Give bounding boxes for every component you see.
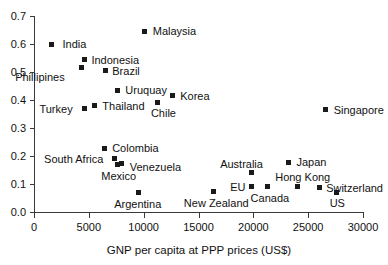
- y-axis-tick-label: 0.5: [0, 67, 26, 78]
- y-axis-tick: [30, 184, 35, 185]
- x-axis-tick: [34, 213, 35, 218]
- data-point: [323, 107, 328, 112]
- y-axis-tick-label: 0.7: [0, 11, 26, 22]
- data-point: [102, 146, 107, 151]
- x-axis-tick: [144, 213, 145, 218]
- x-axis-tick-label: 25000: [278, 222, 338, 233]
- data-point: [115, 162, 120, 167]
- y-axis-tick-label: 0.2: [0, 151, 26, 162]
- data-point: [103, 68, 108, 73]
- data-point: [82, 57, 87, 62]
- y-axis-tick-label: 0.4: [0, 95, 26, 106]
- data-point: [112, 156, 117, 161]
- x-axis-tick-label: 15000: [169, 222, 229, 233]
- data-point-label: New Zealand: [184, 198, 249, 209]
- y-axis-tick-label: 0.1: [0, 179, 26, 190]
- x-axis-tick-label: 0: [4, 222, 64, 233]
- x-axis-tick: [199, 213, 200, 218]
- data-point: [92, 103, 97, 108]
- y-axis-tick: [30, 16, 35, 17]
- data-point-label: Chile: [151, 108, 176, 119]
- data-point: [155, 100, 160, 105]
- y-axis-tick-label: 0.6: [0, 39, 26, 50]
- y-axis-tick: [30, 72, 35, 73]
- data-point-label: Korea: [180, 91, 209, 102]
- data-point-label: Singapore: [334, 105, 384, 116]
- x-axis-tick: [89, 213, 90, 218]
- data-point-label: Hong Kong: [275, 172, 330, 183]
- x-axis-tick-label: 5000: [59, 222, 119, 233]
- y-axis-tick: [30, 128, 35, 129]
- x-axis-tick: [308, 213, 309, 218]
- data-point: [119, 161, 124, 166]
- x-axis-tick-label: 30000: [333, 222, 388, 233]
- data-point: [136, 190, 141, 195]
- data-point-label: Canada: [251, 193, 290, 204]
- data-point-label: Thailand: [102, 101, 144, 112]
- data-point-label: India: [63, 39, 87, 50]
- data-point-label: Turkey: [39, 104, 72, 115]
- data-point-label: South Africa: [44, 154, 103, 165]
- y-axis-tick: [30, 44, 35, 45]
- data-point: [79, 65, 84, 70]
- data-point: [249, 170, 254, 175]
- y-axis-tick-label: 0.0: [0, 207, 26, 218]
- data-point: [286, 160, 291, 165]
- x-axis-tick: [253, 213, 254, 218]
- data-point-label: Argentina: [114, 199, 161, 210]
- x-axis-tick-label: 10000: [114, 222, 174, 233]
- data-point: [334, 190, 339, 195]
- data-point: [295, 184, 300, 189]
- data-point-label: Brazil: [112, 66, 140, 77]
- data-point-label: Uruquay: [125, 85, 167, 96]
- data-point: [49, 42, 54, 47]
- data-point: [211, 189, 216, 194]
- data-point-label: Malaysia: [153, 26, 196, 37]
- data-point-label: Japan: [296, 157, 326, 168]
- data-point: [317, 185, 322, 190]
- data-point-label: Venezuela: [130, 162, 181, 173]
- data-point-label: Colombia: [112, 143, 158, 154]
- x-axis-title: GNP per capita at PPP prices (US$): [34, 244, 364, 257]
- data-point-label: Australia: [220, 159, 263, 170]
- data-point-label: US: [330, 198, 345, 209]
- y-axis-tick: [30, 156, 35, 157]
- data-point: [249, 184, 254, 189]
- x-axis-tick-label: 20000: [223, 222, 283, 233]
- scatter-chart: IndiaIndonesiaPhillipinesBrazilMalaysiaU…: [0, 0, 388, 265]
- y-axis-tick: [30, 100, 35, 101]
- data-point: [82, 106, 87, 111]
- data-point: [170, 93, 175, 98]
- data-point: [142, 29, 147, 34]
- data-point-label: EU: [230, 182, 245, 193]
- y-axis-tick-label: 0.3: [0, 123, 26, 134]
- x-axis-tick: [363, 213, 364, 218]
- data-point: [115, 88, 120, 93]
- data-point-label: Mexico: [101, 171, 136, 182]
- data-point: [265, 184, 270, 189]
